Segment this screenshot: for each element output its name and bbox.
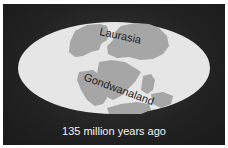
globe-map: Laurasia Gondwanaland <box>3 4 225 145</box>
time-caption: 135 million years ago <box>3 125 225 137</box>
map-frame: Laurasia Gondwanaland 135 million years … <box>3 4 225 145</box>
